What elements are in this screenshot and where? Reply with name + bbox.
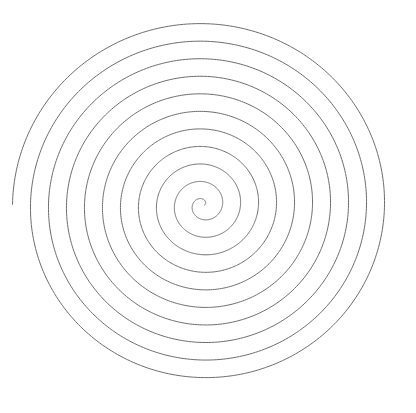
spiral-canvas [0,0,416,413]
spiral-drawing [0,0,416,413]
canvas-background [0,0,416,413]
